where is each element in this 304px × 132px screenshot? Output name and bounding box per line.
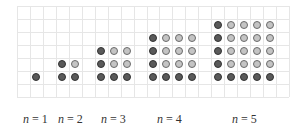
light-dot xyxy=(253,47,261,55)
label-n5-eq: = 5 xyxy=(238,112,257,126)
light-dot xyxy=(253,34,261,42)
light-dot xyxy=(266,60,274,68)
light-dot xyxy=(240,60,248,68)
grid-line-horizontal xyxy=(17,6,289,7)
dark-dot xyxy=(240,73,248,81)
label-n3-eq: = 3 xyxy=(107,112,126,126)
grid-line-vertical xyxy=(289,6,290,97)
grid-line-horizontal xyxy=(17,97,289,98)
dark-dot xyxy=(214,47,222,55)
grid-line-horizontal xyxy=(17,71,289,72)
grid-line-horizontal xyxy=(17,19,289,20)
light-dot xyxy=(240,47,248,55)
dark-dot xyxy=(266,73,274,81)
label-n5: n = 5 xyxy=(232,112,257,127)
dark-dot xyxy=(253,73,261,81)
light-dot xyxy=(227,47,235,55)
label-n2: n = 2 xyxy=(58,112,83,127)
label-n4-eq: = 4 xyxy=(163,112,182,126)
light-dot xyxy=(266,21,274,29)
label-n3: n = 3 xyxy=(101,112,126,127)
dark-dot xyxy=(214,60,222,68)
light-dot xyxy=(266,47,274,55)
dark-dot xyxy=(227,73,235,81)
grid-line-horizontal xyxy=(17,32,289,33)
label-n1: n = 1 xyxy=(23,112,48,127)
label-n4: n = 4 xyxy=(157,112,182,127)
dark-dot xyxy=(214,73,222,81)
light-dot xyxy=(253,21,261,29)
label-n1-eq: = 1 xyxy=(29,112,48,126)
light-dot xyxy=(240,34,248,42)
light-dot xyxy=(266,34,274,42)
grid-line-horizontal xyxy=(17,45,289,46)
label-n2-eq: = 2 xyxy=(64,112,83,126)
dark-dot xyxy=(188,73,196,81)
light-dot xyxy=(253,60,261,68)
grid-line-horizontal xyxy=(17,84,289,85)
dot-pattern-figure: n = 1 n = 2 n = 3 n = 4 n = 5 xyxy=(0,0,304,132)
grid-line-horizontal xyxy=(17,58,289,59)
light-dot xyxy=(227,60,235,68)
